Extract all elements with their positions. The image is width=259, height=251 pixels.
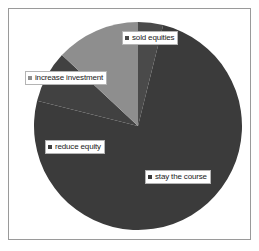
slice-label-marker-sold-equities — [125, 36, 129, 40]
slice-label-increase-investment: increase investment — [25, 71, 107, 85]
pie-chart-plot-area: sold equities increase investment reduce… — [9, 9, 250, 239]
slice-label-text-sold-equities: sold equities — [132, 33, 174, 43]
slice-label-marker-stay-the-course — [148, 175, 152, 179]
slice-label-text-stay-the-course: stay the course — [155, 172, 207, 182]
slice-label-text-increase-investment: increase investment — [35, 73, 103, 83]
chart-frame: sold equities increase investment reduce… — [8, 8, 251, 240]
slice-label-sold-equities: sold equities — [122, 31, 178, 45]
slice-label-text-reduce-equity: reduce equity — [55, 142, 101, 152]
slice-label-reduce-equity: reduce equity — [45, 140, 105, 154]
slice-label-marker-reduce-equity — [48, 145, 52, 149]
slice-label-stay-the-course: stay the course — [145, 170, 211, 184]
slice-label-marker-increase-investment — [28, 76, 32, 80]
pie-slices-group — [34, 22, 242, 230]
